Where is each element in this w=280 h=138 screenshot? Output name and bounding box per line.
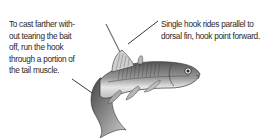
leader-line-right [128,21,158,44]
fishing-bait-diagram: To cast farther with- out tearing the ba… [0,0,280,138]
hook-point [106,24,108,28]
fish-illustration [0,0,280,138]
leader-line-left [72,79,95,95]
